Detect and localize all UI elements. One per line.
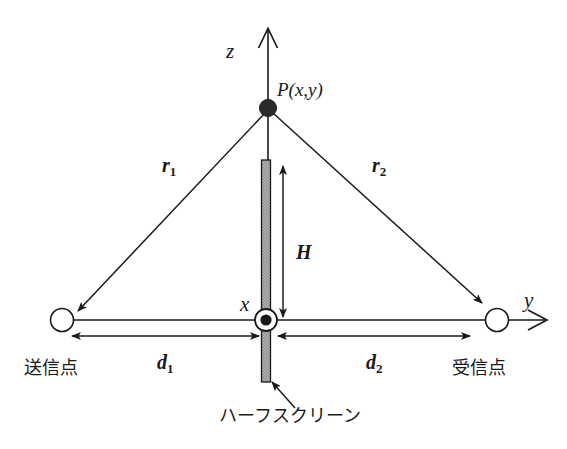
d2-symbol: d bbox=[366, 351, 376, 373]
field-point-label: P(x,y) bbox=[277, 80, 323, 99]
d2-subscript: 2 bbox=[376, 361, 383, 376]
y-axis bbox=[62, 310, 547, 330]
r1-subscript: 1 bbox=[170, 164, 177, 179]
height-label: H bbox=[296, 242, 312, 262]
origin-point bbox=[255, 309, 277, 331]
r2-label: r2 bbox=[372, 155, 386, 175]
ray-r1 bbox=[78, 113, 265, 311]
r2-subscript: 2 bbox=[380, 164, 387, 179]
z-axis-label: z bbox=[226, 41, 234, 62]
half-screen-annotation: ハーフスクリーン bbox=[219, 407, 361, 425]
d1-symbol: d bbox=[157, 351, 167, 373]
diffraction-geometry-svg bbox=[0, 0, 567, 449]
field-point-P bbox=[260, 100, 277, 117]
transmitter-label: 送信点 bbox=[24, 359, 78, 377]
d2-label: d2 bbox=[366, 352, 383, 372]
receiver-point bbox=[486, 309, 509, 332]
ray-r2 bbox=[273, 113, 482, 303]
r2-symbol: r bbox=[372, 154, 380, 176]
diagram-canvas: z y x P(x,y) r1 r2 H d1 d2 送信点 受信点 ハーフスク… bbox=[0, 0, 567, 449]
d1-label: d1 bbox=[157, 352, 174, 372]
half-screen-bar bbox=[262, 160, 271, 382]
r1-label: r1 bbox=[162, 155, 176, 175]
d1-subscript: 1 bbox=[167, 361, 174, 376]
receiver-label: 受信点 bbox=[452, 359, 506, 377]
r1-symbol: r bbox=[162, 154, 170, 176]
transmitter-point bbox=[51, 309, 74, 332]
y-axis-label: y bbox=[524, 290, 533, 311]
x-axis-label: x bbox=[240, 294, 249, 315]
